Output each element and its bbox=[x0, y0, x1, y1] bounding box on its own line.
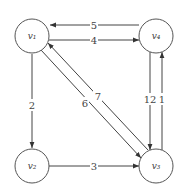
node-label: v₁ bbox=[28, 31, 37, 41]
edge-weight-label: 2 bbox=[29, 100, 35, 111]
edge-v3-v1: 7 bbox=[48, 43, 148, 150]
edge-weight-label: 3 bbox=[91, 161, 97, 172]
edge-weight-label: 7 bbox=[95, 91, 101, 102]
node-v2: v₂ bbox=[15, 149, 49, 183]
edge-v4-v1: 5 bbox=[50, 19, 139, 31]
edge-weight-label: 12 bbox=[144, 94, 157, 105]
edge-v4-v3: 12 bbox=[143, 52, 157, 150]
edge-weight-label: 1 bbox=[159, 94, 165, 105]
edge-v1-v2: 2 bbox=[27, 54, 37, 148]
edge-weight-label: 5 bbox=[91, 20, 97, 31]
edge-v1-v3: 6 bbox=[41, 50, 141, 158]
node-v4: v₄ bbox=[139, 19, 173, 53]
node-v3: v₃ bbox=[139, 149, 173, 183]
node-label: v₄ bbox=[152, 31, 161, 41]
edge-v3-v4: 1 bbox=[158, 52, 166, 150]
graph-diagram: 5 4 2 3 6 7 12 1 bbox=[0, 0, 185, 190]
node-label: v₃ bbox=[152, 161, 161, 171]
node-label: v₂ bbox=[28, 161, 37, 171]
edge-weight-label: 4 bbox=[91, 35, 97, 46]
edge-v1-v4: 4 bbox=[49, 34, 139, 46]
edge-v2-v3: 3 bbox=[49, 160, 139, 172]
edge-weight-label: 6 bbox=[82, 98, 88, 109]
node-v1: v₁ bbox=[15, 19, 49, 53]
